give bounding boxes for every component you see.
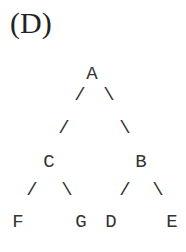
- node-g: G: [75, 213, 86, 232]
- node-c: C: [43, 153, 54, 172]
- node-b: B: [135, 153, 146, 172]
- edge-a-b-lower: \: [119, 119, 130, 138]
- node-a: A: [86, 65, 97, 84]
- node-d: D: [105, 213, 116, 232]
- edge-b-d: /: [119, 181, 130, 200]
- edge-b-e: \: [152, 181, 163, 200]
- node-f: F: [12, 213, 23, 232]
- node-e: E: [166, 213, 177, 232]
- edge-c-g: \: [61, 181, 72, 200]
- figure-label: (D): [10, 8, 52, 38]
- edge-a-c-lower: /: [58, 119, 69, 138]
- edge-a-b: \: [103, 86, 114, 105]
- edge-a-c: /: [74, 86, 85, 105]
- edge-c-f: /: [26, 181, 37, 200]
